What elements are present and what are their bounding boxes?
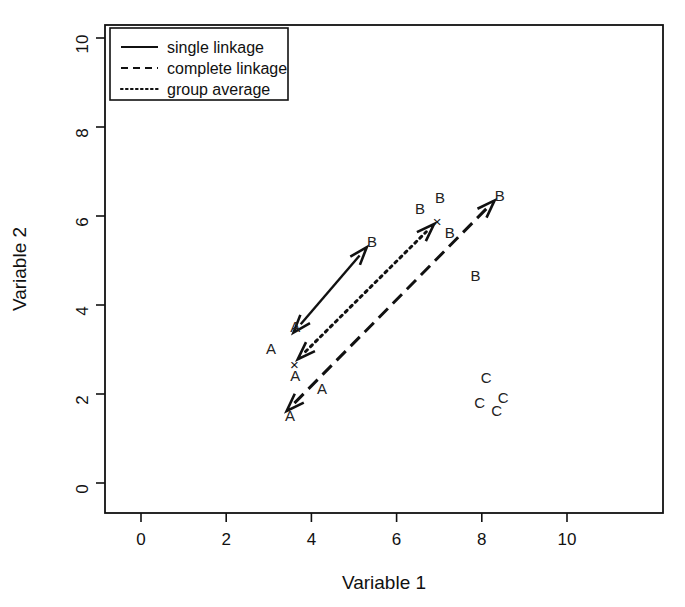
x-tick-label: 8 xyxy=(477,530,486,549)
data-point-B: B xyxy=(435,189,445,206)
data-point-A: A xyxy=(290,318,300,335)
scatter-plot: 0246810 0246810 AAAAABBBBBBCCCC×× single… xyxy=(0,0,685,607)
data-point-B: B xyxy=(415,200,425,217)
data-point-B: B xyxy=(445,224,455,241)
y-axis-title: Variable 2 xyxy=(9,227,30,311)
data-point-B: B xyxy=(495,187,505,204)
data-point-A: A xyxy=(317,380,327,397)
centroid-marker: × xyxy=(290,356,299,373)
y-tick-label: 2 xyxy=(73,395,92,404)
centroid-marker: × xyxy=(433,213,442,230)
chart-canvas: 0246810 0246810 AAAAABBBBBBCCCC×× single… xyxy=(0,0,685,607)
x-axis-title: Variable 1 xyxy=(342,572,426,593)
data-point-B: B xyxy=(367,233,377,250)
data-point-B: B xyxy=(470,267,480,284)
x-tick-label: 10 xyxy=(558,530,577,549)
legend-label: group average xyxy=(167,81,270,98)
y-tick-label: 6 xyxy=(73,217,92,226)
data-point-A: A xyxy=(266,340,276,357)
data-point-C: C xyxy=(491,402,502,419)
y-tick-label: 8 xyxy=(73,128,92,137)
x-tick-label: 2 xyxy=(221,530,230,549)
y-tick-label: 0 xyxy=(73,484,92,493)
data-point-A: A xyxy=(285,407,295,424)
data-point-C: C xyxy=(474,394,485,411)
legend-label: single linkage xyxy=(167,39,264,56)
x-tick-label: 6 xyxy=(392,530,401,549)
y-tick-label: 4 xyxy=(73,306,92,315)
plot-background xyxy=(0,0,685,607)
x-tick-label: 4 xyxy=(307,530,316,549)
data-point-C: C xyxy=(481,369,492,386)
legend: single linkagecomplete linkagegroup aver… xyxy=(110,28,288,100)
x-tick-label: 0 xyxy=(136,530,145,549)
legend-label: complete linkage xyxy=(167,60,287,77)
y-tick-label: 10 xyxy=(73,35,92,54)
